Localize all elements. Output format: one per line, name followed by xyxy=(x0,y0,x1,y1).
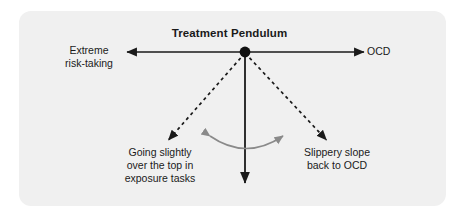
label-ocd: OCD xyxy=(367,45,427,58)
label-going-slightly-over-the-top: Going slightly over the top in exposure … xyxy=(106,146,214,184)
dashed-swing-left-arrow xyxy=(169,53,246,140)
dashed-swing-right-arrow xyxy=(245,53,327,140)
page-title: Treatment Pendulum xyxy=(0,26,459,40)
pivot-point-dot xyxy=(240,47,251,58)
label-extreme-risk-taking: Extreme risk-taking xyxy=(48,44,130,70)
swing-arc xyxy=(210,136,283,149)
label-slippery-slope-back-to-ocd: Slippery slope back to OCD xyxy=(282,146,392,172)
figure-root: Treatment Pendulum Extreme risk-taking O… xyxy=(0,0,459,216)
